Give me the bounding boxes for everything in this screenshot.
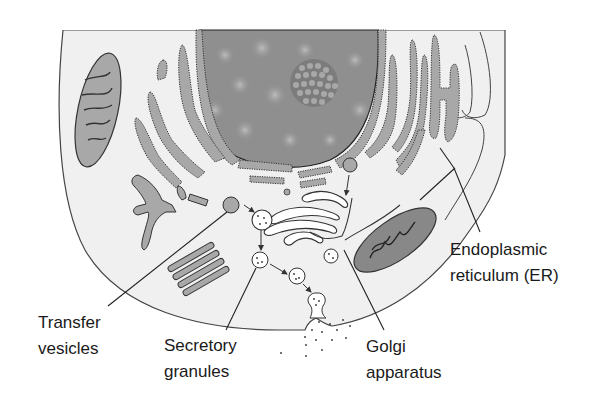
label-secretory-granules: Secretory granules [164, 333, 237, 385]
nucleolus [290, 59, 338, 107]
label-transfer-vesicles: Transfer vesicles [38, 310, 101, 362]
label-endoplasmic-reticulum: Endoplasmic reticulum (ER) [450, 237, 559, 289]
label-golgi-apparatus: Golgi apparatus [366, 334, 442, 386]
er-vesicle [343, 158, 357, 172]
transfer-vesicle [223, 197, 239, 213]
